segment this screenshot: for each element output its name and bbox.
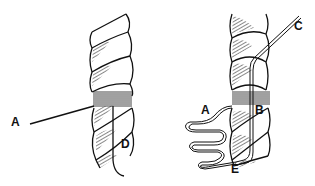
whipping-diagram [0, 0, 315, 186]
left-twine-end-a [30, 106, 94, 124]
label-c: C [294, 20, 303, 32]
label-a-left: A [11, 116, 20, 128]
label-a-right: A [201, 104, 210, 116]
label-e: E [231, 163, 239, 175]
label-b: B [255, 104, 264, 116]
right-whipping-band [232, 92, 270, 104]
left-whipping-band [93, 92, 132, 106]
label-d: D [121, 138, 130, 150]
